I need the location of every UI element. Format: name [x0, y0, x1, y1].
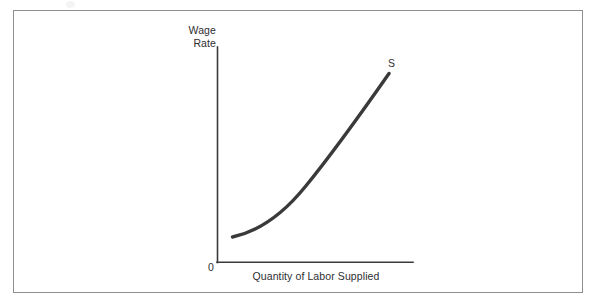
y-axis-title-line-1: Wage: [126, 24, 216, 37]
x-axis-title: Quantity of Labor Supplied: [226, 270, 406, 283]
y-axis-title: Wage Rate: [126, 24, 216, 49]
scan-artifact-speck: [66, 1, 75, 8]
supply-curve-label: S: [388, 57, 395, 70]
y-axis-title-line-2: Rate: [126, 37, 216, 50]
origin-label: 0: [208, 261, 214, 274]
figure-root: Wage Rate 0 Quantity of Labor Supplied S: [0, 0, 596, 304]
figure-frame-border: [13, 10, 583, 293]
